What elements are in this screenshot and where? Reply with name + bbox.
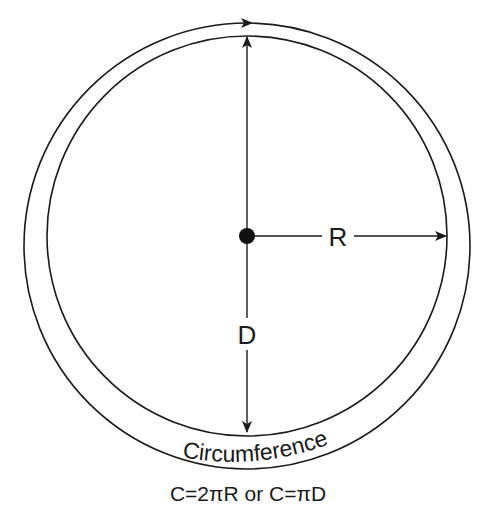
center-point bbox=[239, 228, 255, 244]
circumference-formula: C=2πR or C=πD bbox=[170, 482, 326, 505]
radius-label: R bbox=[329, 222, 348, 252]
circle-diagram: R D Circumference C=2πR or C=πD bbox=[0, 0, 483, 519]
diameter-label: D bbox=[238, 320, 257, 350]
